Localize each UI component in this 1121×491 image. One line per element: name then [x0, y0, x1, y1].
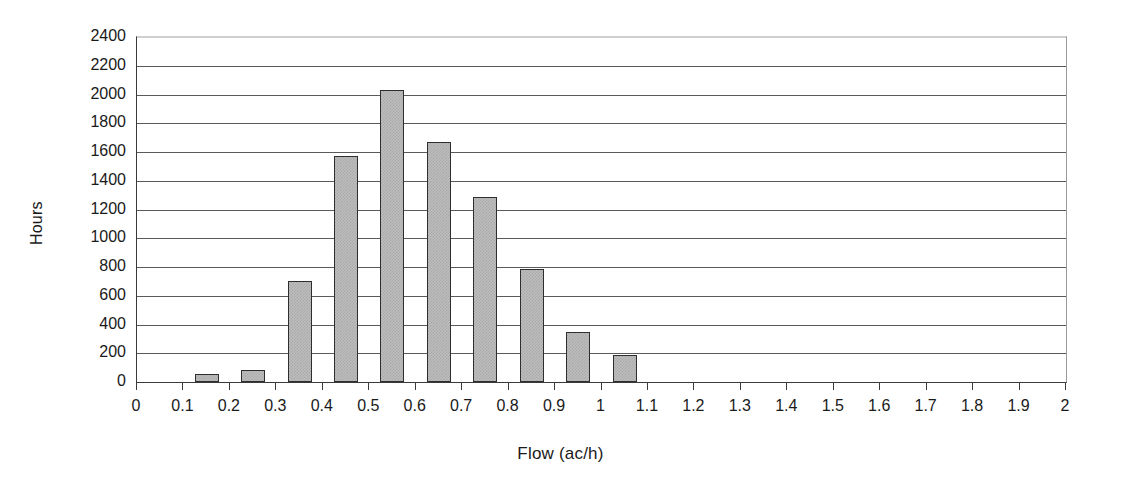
- x-axis-tick-mark: [786, 382, 787, 390]
- x-axis-tick-mark: [322, 382, 323, 390]
- x-axis-tick-label: 0.8: [496, 396, 518, 416]
- x-axis-tick-mark: [601, 382, 602, 390]
- y-axis-tick-label: 200: [99, 344, 126, 360]
- x-axis-tick-label: 0.2: [218, 396, 240, 416]
- y-axis-tick-label: 800: [99, 258, 126, 274]
- x-axis-tick-mark: [368, 382, 369, 390]
- y-axis-tick-label: 2400: [90, 28, 126, 44]
- y-axis-tick-label: 2200: [90, 57, 126, 73]
- bar[interactable]: [334, 156, 358, 382]
- x-axis-tick-label: 2: [1061, 396, 1070, 416]
- y-axis-tick-label: 1000: [90, 229, 126, 245]
- x-axis-title: Flow (ac/h): [0, 444, 1121, 464]
- x-axis-tick-label: 1.2: [682, 396, 704, 416]
- bar[interactable]: [427, 142, 451, 382]
- x-axis-tick-mark: [926, 382, 927, 390]
- bar-chart: Hours 0200400600800100012001400160018002…: [0, 0, 1121, 491]
- bar[interactable]: [566, 332, 590, 382]
- x-axis-tick-mark: [972, 382, 973, 390]
- bar[interactable]: [613, 355, 637, 382]
- x-axis-tick-label: 1.5: [822, 396, 844, 416]
- x-axis-tick-label: 1.7: [915, 396, 937, 416]
- y-axis-title: Hours: [22, 168, 52, 278]
- x-axis-tick-mark: [415, 382, 416, 390]
- y-axis-tick-label: 0: [117, 373, 126, 389]
- x-axis-tick-label: 0: [132, 396, 141, 416]
- x-axis-tick-mark: [1065, 382, 1066, 390]
- y-axis-tick-label: 1800: [90, 114, 126, 130]
- x-axis-tick-label: 0.5: [357, 396, 379, 416]
- bar[interactable]: [380, 90, 404, 382]
- x-axis-tick-label: 1.9: [1007, 396, 1029, 416]
- bar[interactable]: [288, 281, 312, 382]
- x-axis-tick-mark: [833, 382, 834, 390]
- plot-area: [136, 36, 1067, 383]
- y-axis-tick-label: 1200: [90, 201, 126, 217]
- x-axis-tick-label: 0.7: [450, 396, 472, 416]
- x-axis-tick-mark: [693, 382, 694, 390]
- x-axis-tick-label: 1.8: [961, 396, 983, 416]
- y-axis-tick-label: 2000: [90, 86, 126, 102]
- x-axis-tick-mark: [229, 382, 230, 390]
- x-axis-tick-marks: [136, 382, 1067, 391]
- bar[interactable]: [195, 374, 219, 382]
- x-axis-tick-mark: [647, 382, 648, 390]
- bar[interactable]: [473, 197, 497, 382]
- x-axis-tick-label: 1.1: [636, 396, 658, 416]
- x-axis-tick-mark: [879, 382, 880, 390]
- x-axis-tick-label: 0.1: [171, 396, 193, 416]
- x-axis-tick-mark: [508, 382, 509, 390]
- x-axis-tick-mark: [275, 382, 276, 390]
- bar[interactable]: [520, 269, 544, 382]
- x-axis-tick-label: 0.4: [311, 396, 333, 416]
- x-axis-tick-mark: [182, 382, 183, 390]
- x-axis-tick-label: 1.6: [868, 396, 890, 416]
- x-axis-tick-mark: [554, 382, 555, 390]
- x-axis-tick-label: 0.3: [264, 396, 286, 416]
- x-axis-tick-label: 1: [596, 396, 605, 416]
- x-axis-tick-mark: [740, 382, 741, 390]
- y-axis-tick-label: 400: [99, 316, 126, 332]
- x-axis-tick-mark: [1019, 382, 1020, 390]
- x-axis-tick-mark: [461, 382, 462, 390]
- x-axis-tick-labels: 00.10.20.30.40.50.60.70.80.911.11.21.31.…: [136, 396, 1067, 420]
- bars-layer: [137, 37, 1066, 382]
- x-axis-tick-label: 0.6: [404, 396, 426, 416]
- bar[interactable]: [241, 370, 265, 382]
- x-axis-tick-label: 1.4: [775, 396, 797, 416]
- x-axis-tick-label: 1.3: [729, 396, 751, 416]
- y-axis-tick-labels: 0200400600800100012001400160018002000220…: [58, 36, 134, 381]
- x-axis-tick-label: 0.9: [543, 396, 565, 416]
- y-axis-tick-label: 1400: [90, 172, 126, 188]
- x-axis-tick-mark: [136, 382, 137, 390]
- y-axis-tick-label: 1600: [90, 143, 126, 159]
- y-axis-tick-label: 600: [99, 287, 126, 303]
